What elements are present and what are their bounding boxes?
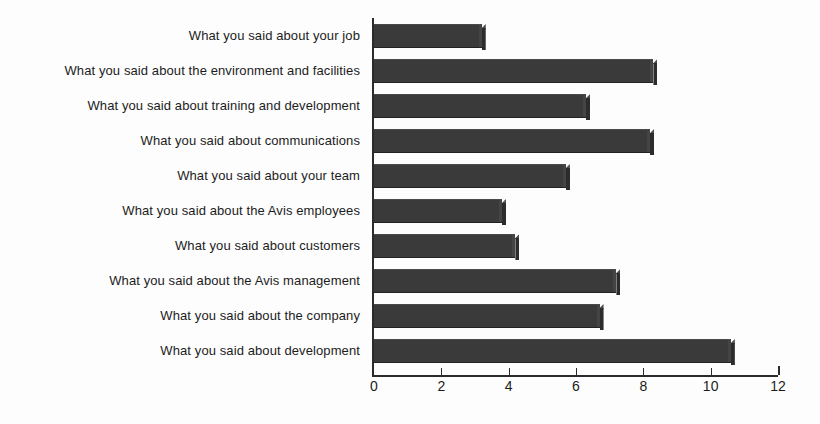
category-label: What you said about communications bbox=[141, 123, 360, 158]
bar bbox=[374, 269, 616, 293]
x-tick-label: 6 bbox=[572, 378, 580, 394]
category-label: What you said about training and develop… bbox=[87, 88, 360, 123]
x-tick-label: 10 bbox=[703, 378, 719, 394]
bar bbox=[374, 339, 731, 363]
bar bbox=[374, 304, 600, 328]
bar bbox=[374, 59, 653, 83]
x-tick-mark bbox=[372, 366, 374, 375]
x-tick-label: 8 bbox=[639, 378, 647, 394]
x-axis-line bbox=[372, 375, 778, 377]
x-tick-mark bbox=[643, 368, 644, 375]
category-label: What you said about your job bbox=[189, 18, 360, 53]
x-tick-label: 12 bbox=[770, 378, 786, 394]
bar bbox=[374, 129, 650, 153]
category-label: What you said about the company bbox=[160, 298, 360, 333]
x-tick-label: 2 bbox=[437, 378, 445, 394]
category-label: What you said about the Avis management bbox=[109, 263, 360, 298]
bar bbox=[374, 164, 566, 188]
category-label: What you said about the Avis employees bbox=[122, 193, 360, 228]
x-tick-label: 4 bbox=[505, 378, 513, 394]
x-tick-mark bbox=[441, 368, 442, 375]
bar bbox=[374, 234, 515, 258]
category-label: What you said about the environment and … bbox=[64, 53, 360, 88]
bar bbox=[374, 94, 586, 118]
bar bbox=[374, 24, 482, 48]
x-tick-label: 0 bbox=[370, 378, 378, 394]
category-label: What you said about development bbox=[160, 333, 360, 368]
x-tick-mark bbox=[576, 368, 577, 375]
x-tick-mark bbox=[778, 366, 780, 375]
bar-chart: What you said about your jobWhat you sai… bbox=[0, 0, 820, 424]
category-axis-labels: What you said about your jobWhat you sai… bbox=[0, 18, 366, 375]
plot-area: 024681012 bbox=[374, 18, 778, 375]
bar bbox=[374, 199, 502, 223]
category-label: What you said about your team bbox=[177, 158, 360, 193]
category-label: What you said about customers bbox=[175, 228, 360, 263]
x-tick-mark bbox=[711, 368, 712, 375]
x-tick-mark bbox=[509, 368, 510, 375]
